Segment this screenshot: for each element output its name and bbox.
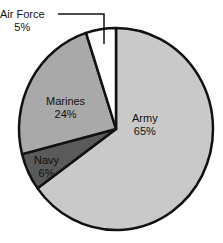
pie-chart xyxy=(0,0,223,243)
label-marines-value: 24% xyxy=(46,108,85,121)
label-navy: Navy 6% xyxy=(34,154,59,180)
label-air-force-value: 5% xyxy=(0,21,45,34)
label-navy-name: Navy xyxy=(34,154,59,167)
label-marines-name: Marines xyxy=(46,95,85,108)
pie-slices xyxy=(19,28,213,230)
label-navy-value: 6% xyxy=(34,167,59,180)
label-air-force-name: Air Force xyxy=(0,8,45,21)
label-army: Army 65% xyxy=(132,112,158,138)
label-army-value: 65% xyxy=(132,125,158,138)
label-air-force: Air Force 5% xyxy=(0,8,45,34)
label-marines: Marines 24% xyxy=(46,95,85,121)
label-army-name: Army xyxy=(132,112,158,125)
